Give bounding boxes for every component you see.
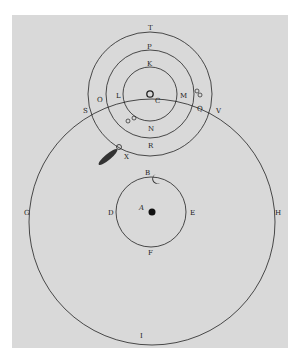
comet bbox=[97, 145, 122, 168]
label-S: S bbox=[83, 107, 88, 115]
label-Q: Q bbox=[197, 105, 203, 113]
label-A: A bbox=[138, 204, 144, 212]
sun-orbit-inner-circle bbox=[123, 67, 177, 121]
mercury-symbol bbox=[126, 116, 136, 123]
label-D: D bbox=[108, 209, 114, 217]
label-N: N bbox=[148, 125, 154, 133]
label-K: K bbox=[147, 60, 153, 68]
label-T: T bbox=[148, 24, 153, 32]
label-M: M bbox=[180, 92, 187, 100]
label-I: I bbox=[140, 332, 143, 340]
label-G: G bbox=[24, 209, 30, 217]
crescent-moon-symbol bbox=[152, 174, 160, 184]
earth-dot bbox=[149, 209, 156, 216]
label-X: X bbox=[124, 153, 129, 161]
label-V: V bbox=[215, 107, 222, 115]
label-B: B bbox=[145, 169, 150, 177]
tychonic-diagram: T P K C L M O S V Q N R X B D E F A G H … bbox=[0, 0, 301, 360]
label-F: F bbox=[148, 249, 153, 257]
label-C: C bbox=[155, 97, 160, 105]
label-E: E bbox=[190, 209, 195, 217]
label-P: P bbox=[147, 43, 152, 51]
label-O: O bbox=[97, 96, 103, 104]
label-L: L bbox=[116, 92, 121, 100]
sun-symbol bbox=[147, 91, 153, 97]
label-R: R bbox=[148, 142, 154, 150]
outer-orbit-circle bbox=[29, 99, 275, 345]
venus-symbol bbox=[195, 89, 202, 97]
label-H: H bbox=[275, 209, 281, 217]
